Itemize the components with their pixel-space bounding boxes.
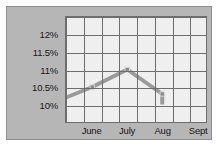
y-tick-label: 11.5% bbox=[33, 46, 58, 57]
gridline-horizontal bbox=[66, 88, 206, 89]
gridline-vertical bbox=[66, 17, 67, 122]
gridline-vertical bbox=[190, 17, 191, 122]
gridline-vertical bbox=[102, 17, 103, 122]
gridline-vertical bbox=[173, 17, 174, 122]
gridline-horizontal bbox=[66, 17, 206, 18]
gridline-vertical bbox=[137, 17, 138, 122]
gridline-horizontal bbox=[66, 106, 206, 107]
series-polyline bbox=[66, 70, 162, 105]
data-point-marker bbox=[160, 92, 164, 96]
x-tick-label: July bbox=[119, 125, 135, 136]
gridline-vertical bbox=[155, 17, 156, 122]
gridline-horizontal bbox=[66, 35, 206, 36]
x-tick-label: Aug bbox=[154, 125, 170, 136]
gridline-horizontal bbox=[66, 71, 206, 72]
x-tick-label: Sept bbox=[189, 125, 208, 136]
y-tick-label: 11% bbox=[40, 64, 58, 75]
plot-area bbox=[65, 16, 207, 123]
gridline-vertical bbox=[119, 17, 120, 122]
y-tick-label: 12% bbox=[40, 28, 58, 39]
y-tick-label: 10.5% bbox=[32, 82, 58, 93]
x-axis-labels: JuneJulyAugSept bbox=[65, 124, 207, 139]
gridline-horizontal bbox=[66, 53, 206, 54]
y-tick-label: 10% bbox=[40, 100, 58, 111]
gridline-vertical bbox=[84, 17, 85, 122]
x-tick-label: June bbox=[82, 125, 102, 136]
chart-figure: 12%11.5%11%10.5%10% JuneJulyAugSept bbox=[6, 6, 212, 140]
y-axis-labels: 12%11.5%11%10.5%10% bbox=[7, 16, 62, 123]
